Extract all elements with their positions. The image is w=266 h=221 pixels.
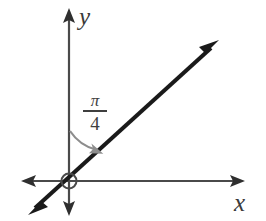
coordinate-plane-graphic	[0, 0, 266, 221]
y-axis-label: y	[79, 4, 90, 29]
x-axis-label: x	[234, 190, 245, 215]
angle-fraction-numerator: π	[82, 92, 108, 110]
angle-measure-label: π 4	[82, 92, 108, 133]
angle-fraction-bar	[83, 110, 107, 112]
angle-fraction-denominator: 4	[82, 113, 108, 133]
math-figure: y x π 4	[0, 0, 266, 221]
